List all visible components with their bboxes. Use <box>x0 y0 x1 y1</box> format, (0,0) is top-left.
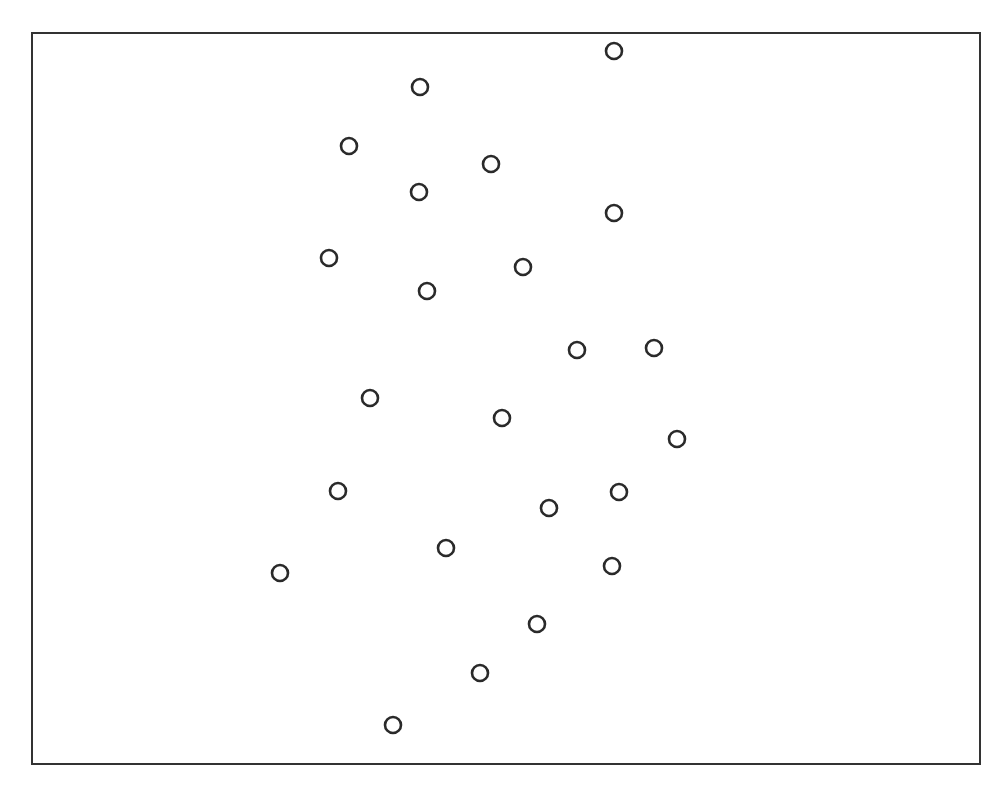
open-circle-marker <box>541 500 557 516</box>
open-circle-marker <box>483 156 499 172</box>
open-circle-marker <box>385 717 401 733</box>
open-circle-marker <box>272 565 288 581</box>
open-circle-marker <box>411 184 427 200</box>
open-circle-marker <box>606 205 622 221</box>
open-circle-marker <box>472 665 488 681</box>
open-circle-marker <box>321 250 337 266</box>
open-circle-marker <box>412 79 428 95</box>
open-circle-marker <box>604 558 620 574</box>
open-circle-marker <box>569 342 585 358</box>
open-circle-marker <box>330 483 346 499</box>
open-circle-marker <box>611 484 627 500</box>
open-circle-marker <box>606 43 622 59</box>
open-circle-marker <box>646 340 662 356</box>
open-circle-marker <box>341 138 357 154</box>
open-circle-marker <box>438 540 454 556</box>
open-circle-marker <box>515 259 531 275</box>
open-circle-marker <box>419 283 435 299</box>
dot-pattern <box>0 0 1007 793</box>
open-circle-marker <box>494 410 510 426</box>
open-circle-marker <box>529 616 545 632</box>
open-circle-marker <box>362 390 378 406</box>
open-circle-marker <box>669 431 685 447</box>
